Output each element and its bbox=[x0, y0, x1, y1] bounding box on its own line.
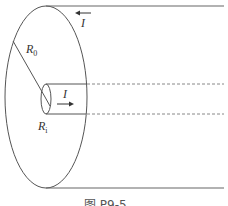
outer-current-label: I bbox=[80, 16, 86, 30]
inner-radius-label: Ri bbox=[37, 119, 48, 135]
inner-current-label: I bbox=[62, 87, 68, 101]
outer-radius-label: R0 bbox=[25, 42, 37, 58]
inner-current-arrow-icon bbox=[57, 102, 74, 107]
inner-radius-line bbox=[45, 97, 50, 106]
figure-caption: 图 P9-5 bbox=[84, 198, 127, 206]
coaxial-cable-diagram: R0 Ri I I 图 P9-5 bbox=[0, 0, 228, 206]
outer-conductor-face bbox=[5, 6, 87, 188]
outer-current-arrow-icon bbox=[75, 11, 91, 16]
